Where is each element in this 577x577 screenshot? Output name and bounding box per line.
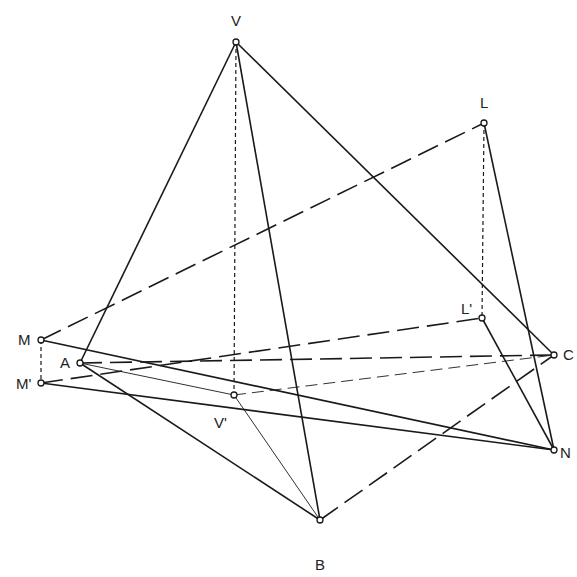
point-Vp [231,392,237,398]
label-V: V [231,12,241,29]
label-N: N [560,444,571,461]
segment-L-N [484,123,554,450]
label-C: C [563,346,574,363]
geometry-diagram: VLL'MM'ACNV'B [0,0,577,577]
label-L: L [480,94,488,111]
segment-Lp-N [482,318,554,450]
label-Mp: M' [16,375,31,392]
label-Lp: L' [461,300,472,317]
segment-V-C [236,42,554,355]
label-A: A [60,354,70,371]
point-N [551,447,557,453]
segment-V-Vp [234,42,236,395]
point-V [233,39,239,45]
point-Lp [479,315,485,321]
point-A [77,360,83,366]
segment-Mp-Lp [41,318,482,383]
segment-M-L [41,123,484,340]
label-B: B [315,556,325,573]
segment-B-C [320,355,554,520]
segment-A-C [80,355,554,363]
point-Mp [38,380,44,386]
point-L [481,120,487,126]
segment-L-Lp [482,123,484,318]
segment-A-B [80,363,320,520]
point-B [317,517,323,523]
segment-V-A [80,42,236,363]
diagram-svg: VLL'MM'ACNV'B [0,0,577,577]
segment-V-B [236,42,320,520]
point-C [551,352,557,358]
point-M [38,337,44,343]
line-group [41,42,554,520]
label-Vp: V' [214,414,227,431]
label-M: M [18,331,31,348]
